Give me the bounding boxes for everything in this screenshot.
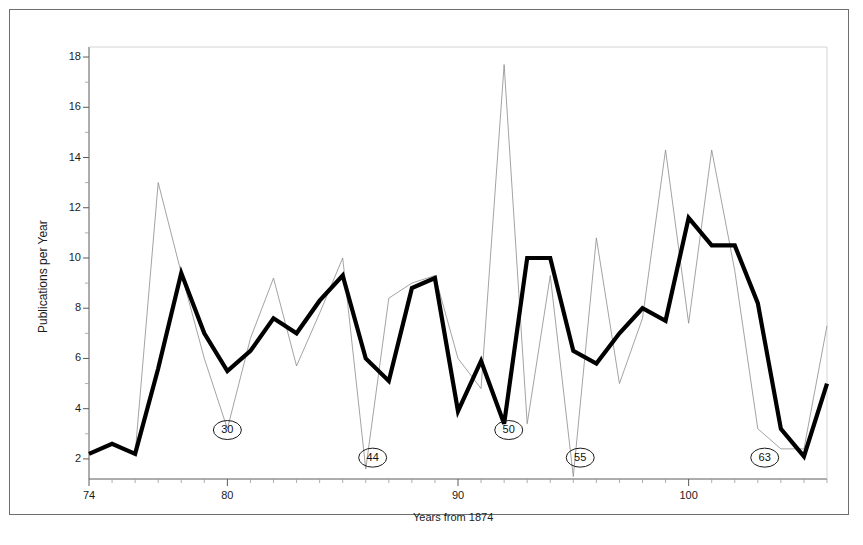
y-tick-label: 8: [59, 301, 81, 313]
y-tick-label: 6: [59, 351, 81, 363]
y-tick-label: 16: [59, 100, 81, 112]
annotation-label-55: 55: [566, 451, 594, 463]
y-tick-label: 10: [59, 251, 81, 263]
chart-plot-area: [10, 10, 850, 516]
annotation-label-30: 30: [213, 423, 241, 435]
x-tick-label: 100: [677, 489, 701, 501]
y-tick-label: 14: [59, 151, 81, 163]
annotation-label-63: 63: [751, 451, 779, 463]
y-tick-label: 12: [59, 201, 81, 213]
x-tick-label: 74: [77, 489, 101, 501]
y-tick-label: 18: [59, 50, 81, 62]
x-tick-label: 80: [215, 489, 239, 501]
x-tick-label: 90: [446, 489, 470, 501]
y-tick-label: 4: [59, 402, 81, 414]
y-axis-title: Publications per Year: [36, 220, 50, 333]
annotation-label-50: 50: [495, 423, 523, 435]
series-smoothed-thick-curve: [89, 218, 827, 457]
annotation-label-44: 44: [359, 451, 387, 463]
figure-border: 18 16 14 12 10 8 6 4 2 74 80 90 100 Publ…: [9, 9, 849, 515]
figure-canvas: 18 16 14 12 10 8 6 4 2 74 80 90 100 Publ…: [0, 0, 863, 545]
x-axis-ticks: [89, 479, 827, 486]
y-axis-ticks: [83, 57, 89, 459]
y-tick-label: 2: [59, 452, 81, 464]
x-axis-title: Years from 1874: [413, 511, 493, 523]
